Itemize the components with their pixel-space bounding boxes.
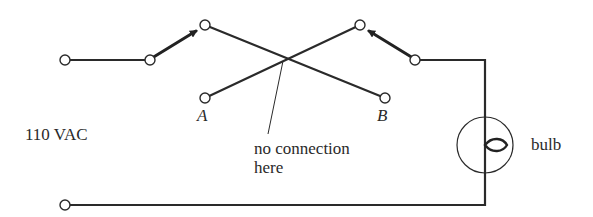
right-switch-arm bbox=[369, 31, 413, 58]
bulb-label: bulb bbox=[531, 136, 561, 154]
terminal-a bbox=[200, 93, 210, 103]
right-switch-top-contact bbox=[355, 20, 365, 30]
terminal-b bbox=[380, 93, 390, 103]
right-switch-pivot bbox=[410, 55, 420, 65]
no-connection-note-line1: no connection bbox=[254, 140, 350, 158]
source-terminal-top bbox=[60, 55, 70, 65]
terminal-b-label: B bbox=[377, 107, 387, 125]
source-terminal-bottom bbox=[60, 200, 70, 210]
no-connection-leader-line bbox=[268, 61, 283, 134]
bulb-filament-icon bbox=[485, 139, 507, 151]
terminal-a-label: A bbox=[197, 107, 207, 125]
source-voltage-label: 110 VAC bbox=[25, 126, 88, 144]
left-switch-arm bbox=[152, 31, 196, 58]
bulb-wire bbox=[65, 60, 485, 205]
cross-wire-top-left-to-b bbox=[205, 25, 385, 98]
left-switch-top-contact bbox=[200, 20, 210, 30]
no-connection-note-line2: here bbox=[254, 159, 283, 177]
circuit-diagram bbox=[0, 0, 593, 217]
left-switch-pivot bbox=[145, 55, 155, 65]
